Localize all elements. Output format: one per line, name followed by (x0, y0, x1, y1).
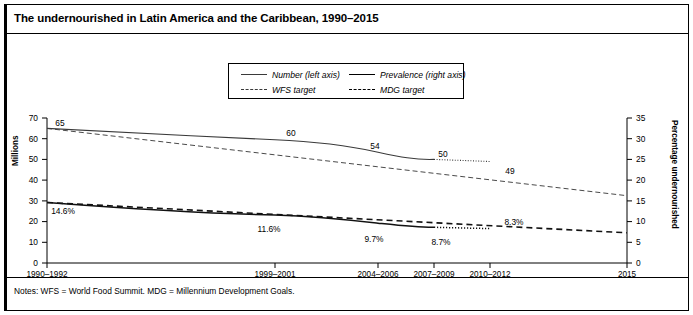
right-tick-30: 30 (636, 134, 658, 144)
series-line-prevalence (47, 203, 434, 228)
series-line-prevalence-projection (434, 227, 490, 228)
x-axis-ticks (47, 263, 627, 268)
left-tick-50: 50 (16, 154, 38, 164)
right-tick-5: 5 (636, 237, 658, 247)
figure-container: The undernourished in Latin America and … (0, 0, 693, 315)
x-tick-2004-2006: 2004–2006 (358, 270, 399, 279)
left-axis-ticks (42, 118, 47, 263)
left-tick-10: 10 (16, 237, 38, 247)
right-axis-ticks (627, 118, 632, 263)
x-tick-2015: 2015 (618, 270, 636, 279)
data-label-prevalence-1990: 14.6% (51, 206, 75, 216)
x-tick-2010-2012: 2010–2012 (470, 270, 511, 279)
right-tick-15: 15 (636, 196, 658, 206)
data-label-number-2010: 49 (505, 166, 514, 176)
left-tick-0: 0 (16, 258, 38, 268)
x-tick-1999-2001: 1999–2001 (255, 270, 296, 279)
right-tick-10: 10 (636, 216, 658, 226)
x-tick-2007-2009: 2007–2009 (414, 270, 455, 279)
series-line-wfs-target (47, 128, 627, 195)
left-tick-40: 40 (16, 175, 38, 185)
data-label-number-1990: 65 (55, 118, 64, 128)
series-line-mdg-target (47, 203, 627, 233)
right-tick-20: 20 (636, 175, 658, 185)
right-tick-0: 0 (636, 258, 658, 268)
right-tick-25: 25 (636, 154, 658, 164)
data-label-prevalence-2004: 9.7% (364, 234, 383, 244)
left-tick-20: 20 (16, 216, 38, 226)
right-tick-35: 35 (636, 113, 658, 123)
left-tick-70: 70 (16, 113, 38, 123)
data-label-prevalence-1999: 11.6% (257, 224, 280, 234)
data-label-prevalence-2010: 8.3% (504, 217, 523, 227)
data-label-number-1999: 60 (286, 128, 295, 138)
chart-note: Notes: WFS = World Food Summit. MDG = Mi… (14, 286, 295, 296)
data-label-number-2007: 50 (438, 149, 447, 159)
plot-area (0, 0, 693, 315)
series-line-number-projection (434, 159, 490, 161)
x-tick-1990-1992: 1990–1992 (27, 270, 68, 279)
data-label-number-2004: 54 (370, 141, 379, 151)
left-tick-30: 30 (16, 196, 38, 206)
left-tick-60: 60 (16, 134, 38, 144)
data-label-prevalence-2007: 8.7% (431, 237, 450, 247)
